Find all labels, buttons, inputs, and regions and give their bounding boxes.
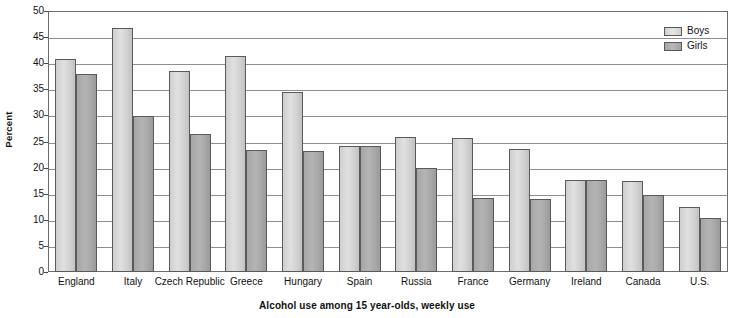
bar-boys [112, 28, 133, 272]
bar-group [565, 11, 607, 272]
bar-boys [282, 92, 303, 272]
bar-group [452, 11, 494, 272]
legend-label-girls: Girls [687, 41, 708, 51]
bar-group [282, 11, 324, 272]
bar-girls [586, 180, 607, 272]
bar-girls [303, 151, 324, 272]
y-axis-tick-label: 25 [2, 137, 44, 147]
x-axis-tick-label: U.S. [657, 276, 734, 288]
bar-boys [509, 149, 530, 272]
bar-chart: Percent 05101520253035404550 EnglandItal… [0, 0, 734, 318]
bar-boys [169, 71, 190, 272]
bar-girls [246, 150, 267, 272]
bar-group [339, 11, 381, 272]
bar-boys [679, 207, 700, 272]
bar-girls [473, 198, 494, 272]
y-axis-tick-label: 20 [2, 163, 44, 173]
bar-group [112, 11, 154, 272]
y-axis-tick-label: 35 [2, 84, 44, 94]
bar-boys [452, 138, 473, 272]
bar-boys [622, 181, 643, 272]
y-axis-tick-labels: 05101520253035404550 [0, 0, 44, 318]
bar-group [395, 11, 437, 272]
bar-girls [133, 116, 154, 272]
bar-girls [76, 74, 97, 272]
bar-girls [360, 146, 381, 272]
y-axis-tick-mark [44, 272, 48, 273]
y-axis-tick-label: 50 [2, 6, 44, 16]
y-axis-tick-label: 45 [2, 32, 44, 42]
y-axis-tick-label: 5 [2, 241, 44, 251]
bar-girls [416, 168, 437, 272]
bar-boys [339, 146, 360, 272]
y-axis-tick-label: 30 [2, 110, 44, 120]
bar-group [622, 11, 664, 272]
bar-groups [48, 11, 728, 272]
bar-group [169, 11, 211, 272]
legend-item-girls: Girls [664, 39, 728, 53]
legend-item-boys: Boys [664, 24, 728, 38]
bar-girls [190, 134, 211, 272]
bar-girls [530, 199, 551, 272]
legend-swatch-boys-icon [664, 27, 682, 36]
bar-boys [225, 56, 246, 272]
bar-group [55, 11, 97, 272]
chart-caption: Alcohol use among 15 year-olds, weekly u… [0, 300, 734, 311]
bar-girls [700, 218, 721, 272]
bar-group [509, 11, 551, 272]
bar-boys [565, 180, 586, 272]
y-axis-tick-label: 15 [2, 189, 44, 199]
y-axis-tick-label: 10 [2, 215, 44, 225]
bar-boys [55, 59, 76, 272]
bar-boys [395, 137, 416, 272]
bar-group [225, 11, 267, 272]
bar-girls [643, 195, 664, 272]
chart-legend: Boys Girls [664, 24, 728, 54]
legend-label-boys: Boys [687, 26, 709, 36]
legend-swatch-girls-icon [664, 42, 682, 51]
y-axis-tick-label: 40 [2, 58, 44, 68]
